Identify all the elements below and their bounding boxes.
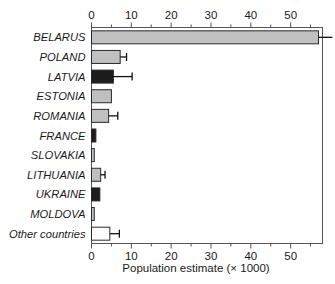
x-tick-label-top: 20 [165, 9, 178, 21]
category-label: SLOVAKIA [31, 149, 86, 161]
category-label: BELARUS [33, 31, 86, 43]
bar [92, 31, 319, 44]
bar [92, 50, 121, 63]
x-tick-label-bottom: 40 [244, 250, 257, 262]
x-axis-title: Population estimate (× 1000) [122, 262, 270, 274]
bar [92, 149, 95, 162]
category-label: FRANCE [40, 130, 87, 142]
x-tick-label-bottom: 50 [284, 250, 297, 262]
category-label: LITHUANIA [27, 169, 85, 181]
bar [92, 90, 112, 103]
category-label: MOLDOVA [30, 208, 85, 220]
bar [92, 129, 96, 142]
category-label: ROMANIA [33, 110, 85, 122]
bar-chart: 01020304050 01020304050 BELARUSPOLANDLAT… [0, 0, 335, 284]
category-label: Other countries [9, 228, 86, 240]
bar [92, 109, 109, 122]
x-tick-label-bottom: 20 [165, 250, 178, 262]
category-label: LATVIA [48, 71, 86, 83]
bar [92, 188, 100, 201]
chart-container: 01020304050 01020304050 BELARUSPOLANDLAT… [0, 0, 335, 284]
category-label: ESTONIA [37, 90, 86, 102]
x-tick-label-top: 30 [205, 9, 218, 21]
x-tick-label-bottom: 0 [88, 250, 94, 262]
x-tick-label-top: 50 [284, 9, 297, 21]
category-label: UKRAINE [36, 188, 86, 200]
category-label: POLAND [39, 51, 85, 63]
bar [92, 70, 114, 83]
x-tick-label-top: 10 [125, 9, 138, 21]
x-tick-label-top: 40 [244, 9, 257, 21]
bar [92, 208, 95, 221]
bar [92, 168, 101, 181]
x-tick-label-bottom: 10 [125, 250, 138, 262]
bar [92, 227, 110, 240]
x-tick-label-top: 0 [88, 9, 94, 21]
x-tick-label-bottom: 30 [205, 250, 218, 262]
